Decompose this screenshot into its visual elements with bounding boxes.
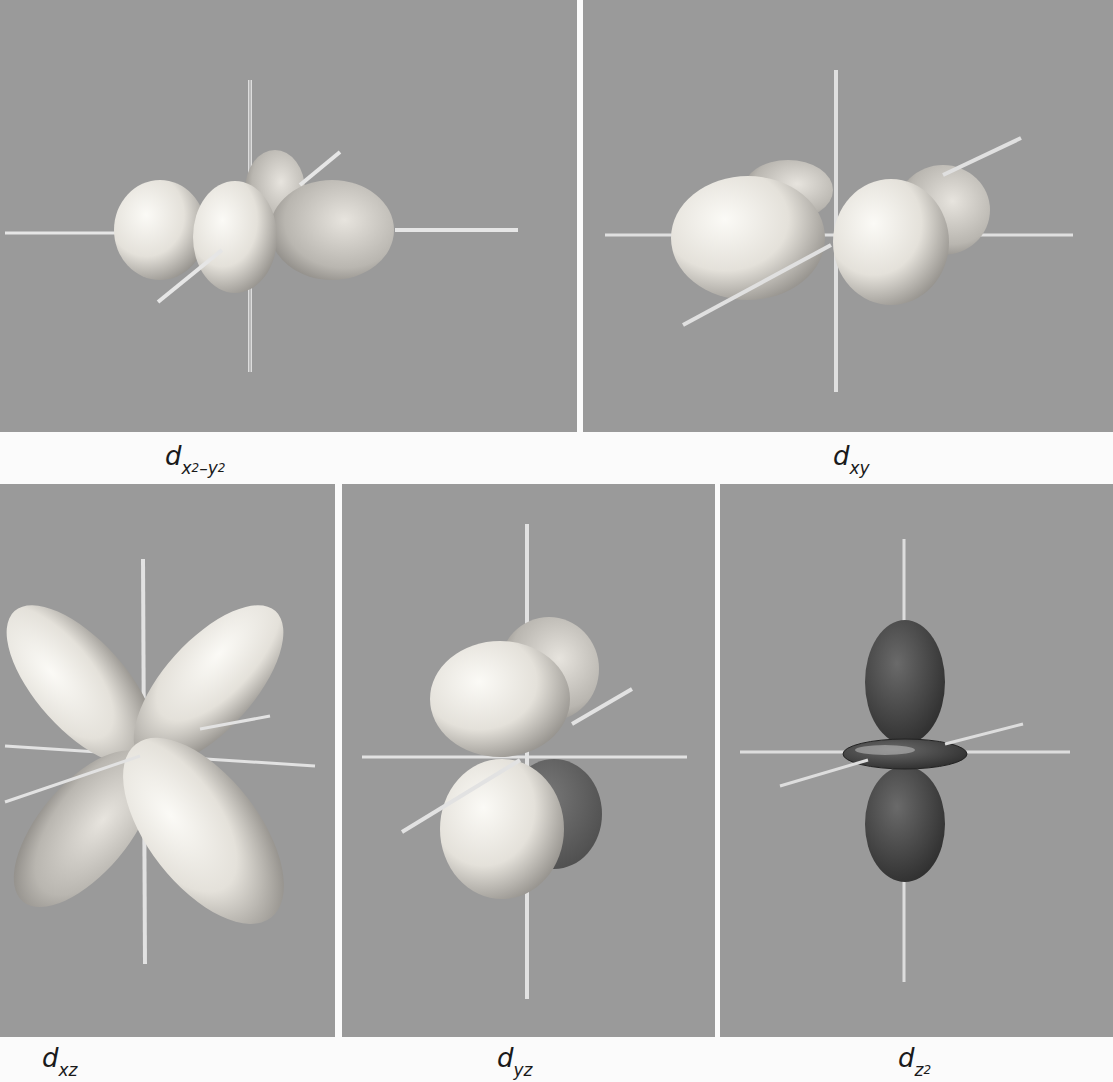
caption-sup: 2 [923,1063,931,1077]
dxz-orbital-model [0,484,335,1037]
caption-subscript: xy [850,458,870,478]
caption-dxz: dxz [42,1045,78,1071]
caption-dyz: dyz [497,1045,533,1071]
panel-dz2 [720,484,1113,1037]
caption-base: d [42,1043,59,1073]
caption-base: d [833,441,850,471]
caption-base: d [165,441,182,471]
panel-dyz [342,484,715,1037]
caption-dxy: dxy [833,443,870,469]
panel-dxz [0,484,335,1037]
dxy-orbital-model [583,0,1113,432]
caption-subscript: xz [59,1060,78,1080]
caption-subscript: yz [514,1060,533,1080]
dx2-y2-orbital-model [0,0,577,432]
caption-sup: 2 [192,461,200,475]
panel-dx2-y2 [0,0,577,432]
caption-sup: 2 [218,461,226,475]
caption-base: d [497,1043,514,1073]
caption-subscript: z2 [915,1060,932,1080]
caption-base: d [898,1043,915,1073]
dyz-orbital-model [342,484,715,1037]
dz2-orbital-model [720,484,1113,1037]
caption-sub-y: –y [199,458,218,478]
panel-dxy [583,0,1113,432]
caption-sub-x: x [182,458,192,478]
caption-dx2-y2: dx2–y2 [165,443,225,469]
caption-dz2: dz2 [898,1045,931,1071]
caption-subscript: x2–y2 [182,458,226,478]
